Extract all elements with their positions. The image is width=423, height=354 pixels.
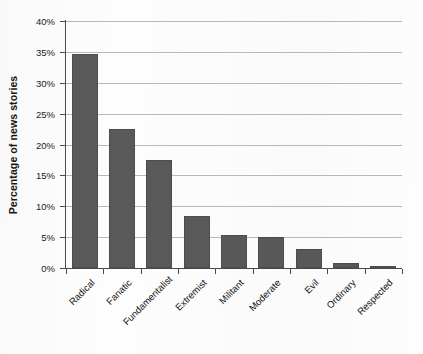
y-axis-tick-label: 10% bbox=[3, 201, 55, 212]
gridline bbox=[66, 21, 402, 22]
y-axis-tick-label: 0% bbox=[3, 263, 55, 274]
y-axis-tick-label: 30% bbox=[3, 77, 55, 88]
bar bbox=[370, 266, 396, 268]
bar bbox=[296, 249, 322, 268]
bar bbox=[146, 160, 172, 268]
x-axis-tick-mark bbox=[327, 269, 328, 274]
bar bbox=[221, 235, 247, 268]
y-axis-tick-label: 35% bbox=[3, 46, 55, 57]
y-axis-tick-label: 5% bbox=[3, 232, 55, 243]
y-axis-tick-label: 15% bbox=[3, 170, 55, 181]
bar bbox=[333, 263, 359, 268]
x-axis-tick-mark bbox=[66, 269, 67, 274]
x-axis-tick-mark bbox=[141, 269, 142, 274]
bar-chart-figure: Percentage of news stories 0%5%10%15%20%… bbox=[0, 0, 423, 354]
y-axis-tick-label: 40% bbox=[3, 16, 55, 27]
gridline bbox=[66, 83, 402, 84]
y-axis-tick-label: 25% bbox=[3, 108, 55, 119]
x-axis-baseline bbox=[66, 268, 402, 269]
x-axis-tick-mark bbox=[178, 269, 179, 274]
x-axis-tick-mark bbox=[103, 269, 104, 274]
gridline bbox=[66, 114, 402, 115]
plot-area bbox=[66, 21, 402, 268]
x-axis-tick-mark bbox=[402, 269, 403, 274]
bar bbox=[72, 54, 98, 268]
bar bbox=[184, 216, 210, 268]
bar bbox=[258, 237, 284, 268]
x-axis-tick-mark bbox=[290, 269, 291, 274]
x-axis-tick-mark bbox=[253, 269, 254, 274]
y-axis-tick-label: 20% bbox=[3, 139, 55, 150]
bar bbox=[109, 129, 135, 268]
x-axis-tick-mark bbox=[365, 269, 366, 274]
x-axis-tick-mark bbox=[215, 269, 216, 274]
gridline bbox=[66, 52, 402, 53]
